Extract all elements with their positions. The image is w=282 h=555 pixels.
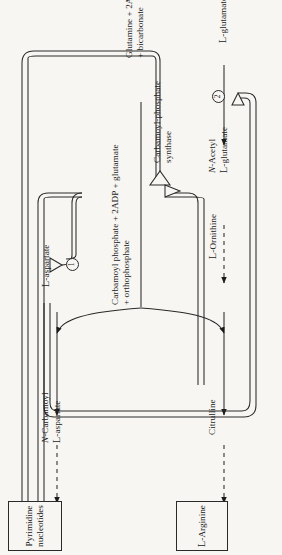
ornithine-prefix: L bbox=[207, 253, 218, 259]
glutamine-line2: + bicarbonate bbox=[135, 7, 145, 58]
step-1-number: 1 bbox=[67, 263, 76, 267]
hollow-arrow-step2 bbox=[232, 93, 244, 105]
curve-cp-to-ornithine-branch bbox=[141, 308, 224, 333]
enzyme-line2: synthase bbox=[163, 131, 173, 163]
acetylglutamate-l2: -glutamate bbox=[219, 127, 229, 167]
conduit-pyrimidine-a-outer bbox=[38, 193, 82, 525]
acetylglutamate-l2-prefix: L bbox=[218, 167, 229, 173]
curve-cp-to-aspartate-branch bbox=[57, 308, 141, 333]
arginine-stem: -Arginine bbox=[197, 505, 207, 541]
glutamine-line1: Glutamine + 2ATP bbox=[124, 0, 134, 58]
box-pyrimidine-nucleotides: Pyrimidine nucleotides bbox=[8, 501, 62, 551]
carbamoyl-aspartate-l1: -Carbamoyl bbox=[40, 392, 50, 436]
carbamoyl-aspartate-l2: -aspartate bbox=[52, 401, 62, 437]
carbamoyl-aspartate-l2-prefix: L bbox=[51, 437, 62, 443]
step-marker-1: 1 bbox=[66, 258, 79, 271]
conduit-synthase-inner bbox=[92, 56, 156, 185]
citrulline-text: Citrulline bbox=[207, 399, 217, 435]
cp-line1: Carbamoyl phosphate + 2ADP + glutamate bbox=[110, 144, 120, 305]
arginine-prefix: L bbox=[196, 541, 207, 547]
glutamate-stem: -glutamate bbox=[218, 0, 228, 37]
conduit-to-step1-inner bbox=[66, 197, 82, 259]
box-l-arginine: L-Arginine bbox=[176, 501, 228, 551]
conduit-ornithine-outer bbox=[165, 193, 198, 385]
step-marker-2: 2 bbox=[212, 90, 225, 103]
acetylglutamate-l1: -Acetyl bbox=[207, 139, 217, 167]
pathway-canvas: Pyrimidine nucleotides L-Arginine N-Carb… bbox=[0, 0, 282, 555]
pyrimidine-line1: Pyrimidine bbox=[24, 506, 34, 547]
aspartate-prefix: L bbox=[40, 281, 51, 287]
hollow-arrow-synthase-down bbox=[165, 185, 180, 197]
hollow-arrow-step1 bbox=[50, 258, 62, 272]
glutamate-prefix: L bbox=[217, 37, 228, 43]
acetylglutamate-l1-italic: N bbox=[207, 167, 217, 173]
conduit-to-step1-outer bbox=[62, 193, 82, 265]
step-2-number: 2 bbox=[213, 95, 222, 99]
hollow-arrow-synthase-side bbox=[150, 171, 170, 185]
aspartate-stem: -aspartate bbox=[41, 245, 51, 281]
conduit-synthase-outer bbox=[92, 51, 160, 185]
carbamoyl-aspartate-l1-italic: N bbox=[40, 437, 50, 443]
pyrimidine-line2: nucleotides bbox=[35, 505, 45, 547]
ornithine-stem: -Ornithine bbox=[208, 214, 218, 253]
cp-line2: + orthophosphate bbox=[121, 240, 131, 305]
figure-page: Pyrimidine nucleotides L-Arginine N-Carb… bbox=[0, 0, 282, 555]
page-margin-note bbox=[263, 0, 281, 555]
enzyme-line1: Carbamoyl-phosphate bbox=[152, 81, 162, 163]
